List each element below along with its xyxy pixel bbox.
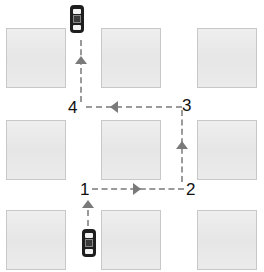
car-roof [73,15,81,23]
waypoint-label-4: 4 [68,99,77,116]
arrow-left-icon [110,101,118,113]
car-windshield [73,9,81,14]
waypoint-label-3: 3 [182,97,191,114]
city-block-r1c3 [197,28,257,88]
city-block-r1c2 [101,28,161,88]
car-icon [82,229,96,257]
city-block-r2c3 [197,120,257,180]
car-rear-window [85,249,93,254]
car-rear-window [73,25,81,30]
city-block-r2c2 [101,120,161,180]
city-block-r3c1 [6,210,66,270]
city-block-r3c2 [101,210,161,270]
car-roof [85,239,93,247]
route-4-to-end [80,40,84,102]
arrow-up-icon [176,141,188,149]
route-start-to-1 [87,210,91,226]
city-block-r2c1 [6,120,66,180]
waypoint-label-1: 1 [80,181,89,198]
car-icon [70,5,84,33]
arrow-right-icon [133,183,141,195]
arrow-up-icon [75,56,87,64]
waypoint-label-2: 2 [186,181,195,198]
car-windshield [85,233,93,238]
arrow-up-icon [82,200,94,208]
city-block-r1c1 [6,28,66,88]
city-block-r3c3 [197,210,257,270]
route-3-to-4 [86,106,182,110]
